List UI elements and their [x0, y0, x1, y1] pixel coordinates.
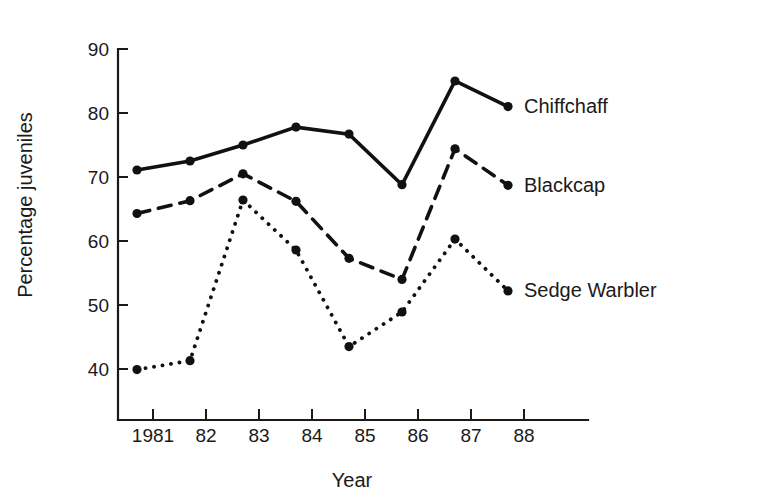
y-axis-tick-label: 90 — [88, 39, 109, 60]
data-point — [503, 181, 512, 190]
y-axis: 405060708090 — [88, 39, 128, 420]
line-chart-svg: 405060708090 198182838485868788 Chiffcha… — [0, 0, 773, 499]
data-point — [185, 196, 194, 205]
series-label-blackcap: Blackcap — [524, 174, 605, 196]
data-point — [397, 275, 406, 284]
series-layer — [132, 76, 512, 374]
data-point — [291, 197, 300, 206]
data-point — [238, 195, 247, 204]
x-axis-tick-label: 1981 — [132, 425, 174, 446]
x-axis-title: Year — [332, 469, 373, 491]
series-line-sedge-warbler — [137, 200, 508, 370]
y-axis-tick-label: 70 — [88, 167, 109, 188]
series-label-chiffchaff: Chiffchaff — [524, 95, 608, 117]
data-point — [291, 123, 300, 132]
x-axis-tick-label: 82 — [195, 425, 216, 446]
data-point — [185, 356, 194, 365]
x-axis-tick-label: 83 — [248, 425, 269, 446]
data-point — [503, 102, 512, 111]
x-axis-tick-label: 86 — [407, 425, 428, 446]
y-axis-tick-label: 60 — [88, 231, 109, 252]
data-point — [132, 209, 141, 218]
data-point — [450, 235, 459, 244]
data-point — [238, 169, 247, 178]
x-axis: 198182838485868788 — [118, 409, 588, 446]
y-axis-tick-label: 80 — [88, 103, 109, 124]
data-point — [397, 180, 406, 189]
data-point — [238, 140, 247, 149]
y-axis-tick-label: 40 — [88, 359, 109, 380]
data-point — [450, 144, 459, 153]
data-point — [397, 307, 406, 316]
x-axis-tick-label: 87 — [460, 425, 481, 446]
series-label-layer: ChiffchaffBlackcapSedge Warbler — [524, 95, 657, 301]
series-line-blackcap — [137, 149, 508, 280]
data-point — [132, 365, 141, 374]
chart-figure: 405060708090 198182838485868788 Chiffcha… — [0, 0, 773, 499]
data-point — [132, 165, 141, 174]
x-axis-tick-label: 84 — [301, 425, 323, 446]
data-point — [344, 342, 353, 351]
x-axis-tick-label: 85 — [354, 425, 375, 446]
series-label-sedge-warbler: Sedge Warbler — [524, 279, 657, 301]
data-point — [344, 130, 353, 139]
data-point — [344, 254, 353, 263]
series-line-chiffchaff — [137, 81, 508, 185]
data-point — [450, 76, 459, 85]
data-point — [503, 286, 512, 295]
data-point — [291, 245, 300, 254]
x-axis-tick-label: 88 — [513, 425, 534, 446]
data-point — [185, 156, 194, 165]
y-axis-tick-label: 50 — [88, 295, 109, 316]
y-axis-title: Percentage juveniles — [14, 112, 36, 298]
